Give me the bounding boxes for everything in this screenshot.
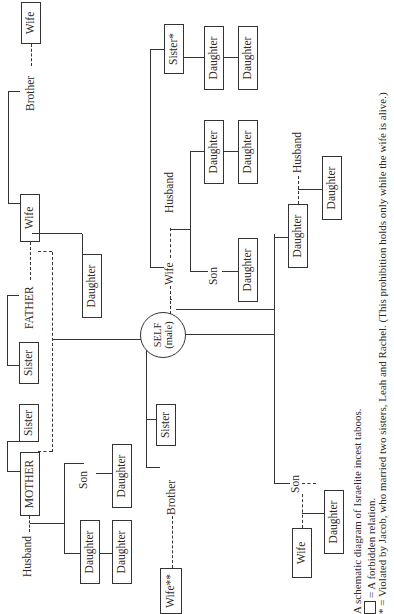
father-wife-link	[30, 242, 31, 280]
wife-son-stem	[190, 271, 208, 272]
self-sister-box: Sister	[156, 404, 176, 446]
brother-wife-dashed	[172, 516, 173, 568]
wife-husband-stem	[170, 229, 190, 230]
mother-husband-stem	[30, 523, 64, 524]
self-children-stem	[170, 299, 172, 300]
mother-box: MOTHER	[20, 452, 40, 516]
self-down-stem	[186, 334, 274, 335]
mother-son-stem	[64, 463, 84, 464]
father-sister-box: Sister	[19, 342, 39, 384]
self-son-label: Son	[290, 474, 302, 494]
mother-sister-bracket-v	[7, 471, 20, 472]
self-to-children-from-wife	[176, 309, 274, 310]
daughter-husband-label: Husband	[292, 131, 304, 174]
mother-daughter-daughter-link	[100, 553, 112, 554]
daughter-daughter-box: Daughter	[322, 156, 342, 220]
daughter-husband-dashed	[298, 176, 299, 204]
forbidden-relation-square-icon	[364, 601, 376, 614]
wife-sister-bracket-b	[150, 49, 164, 50]
father-sister-bracket-v	[7, 365, 19, 366]
mother-sister-bracket-h	[7, 442, 8, 472]
caption-title: A schematic diagram of Israelite incest …	[352, 408, 363, 614]
wife-sister-box: Sister*	[164, 24, 184, 74]
wife-children-bar	[190, 152, 191, 272]
mother-son-label: Son	[78, 470, 90, 490]
mother-son-daughter-link	[96, 473, 112, 474]
mother-sister-box: Sister	[19, 404, 39, 442]
wife-husband-label: Husband	[164, 171, 176, 214]
parents-to-sibling-bar	[52, 339, 146, 340]
mother-father-vertical-right	[38, 251, 52, 252]
incest-taboo-diagram: Husband MOTHER Sister Sister FATHER Wife…	[0, 0, 394, 614]
father-brother-wife-box: Wife	[21, 2, 41, 44]
wife-daughter-stem	[190, 151, 204, 152]
husband-mother-link	[29, 516, 30, 532]
self-male-label: (male)	[163, 321, 174, 348]
father-brother-bracket-h	[8, 92, 9, 204]
wife-daughter-daughter-link	[224, 151, 238, 152]
father-brother-bracket-v2	[8, 91, 20, 92]
mother-father-vertical-left	[38, 451, 52, 452]
wife-son-daughter-box: Daughter	[238, 238, 258, 302]
father-daughter-branch	[82, 234, 83, 254]
mother-sister-link	[7, 441, 19, 442]
wife-son-label: Son	[208, 266, 220, 286]
self-circle: SELF (male)	[140, 312, 186, 358]
mother-daughter-stem	[64, 553, 80, 554]
mother-daughter-daughter-box: Daughter	[112, 520, 132, 584]
self-son-stem	[274, 483, 290, 484]
father-sister-bracket-v2	[7, 295, 19, 296]
wife-sister-daughter-1: Daughter	[204, 26, 224, 90]
father-daughter-stem	[32, 233, 82, 234]
son-wife-dashed	[302, 483, 316, 484]
wife-sister-daughter-2: Daughter	[238, 26, 258, 90]
father-label: FATHER	[24, 285, 36, 330]
son-daughter-box: Daughter	[324, 490, 344, 554]
son-wife-dashed-h	[302, 494, 303, 528]
father-brother-label: Brother	[25, 75, 37, 112]
son-wife-box: Wife	[292, 528, 312, 578]
mother-children-bar	[64, 464, 65, 554]
self-daughter-stem	[274, 237, 288, 238]
self-wife-dashed	[170, 286, 171, 314]
self-children-bar	[274, 334, 275, 484]
daughter-child-stem	[298, 189, 322, 190]
brother-stem	[146, 467, 160, 468]
mother-son-daughter-box: Daughter	[112, 444, 132, 508]
mother-husband-label: Husband	[22, 535, 34, 578]
father-wife-box: Wife	[20, 194, 40, 242]
caption-footnote: * = Violated by Jacob, who married two s…	[377, 92, 388, 614]
wife-daughter-daughter-box: Daughter	[238, 120, 258, 184]
wife-sister-bracket-h	[150, 50, 151, 268]
wife-label: Wife	[164, 261, 176, 286]
sibling-bar	[146, 340, 147, 468]
self-brother-label: Brother	[166, 479, 178, 516]
father-brother-bracket-v	[8, 203, 20, 204]
son-daughter-stem	[302, 513, 324, 514]
wife-husband-dashed	[170, 228, 171, 258]
father-sister-bracket-h	[7, 296, 8, 366]
brother-wife-box: Wife**	[160, 568, 182, 614]
wife-daughter-box: Daughter	[204, 120, 224, 184]
mother-daughter-box: Daughter	[80, 520, 100, 584]
wife-sister-bracket-a	[150, 267, 164, 268]
sister-stem	[146, 419, 156, 420]
self-label: SELF	[152, 323, 163, 348]
parents-link	[52, 252, 53, 452]
brother-wife-link	[31, 44, 32, 66]
self-daughter-box: Daughter	[288, 204, 308, 268]
father-daughter-box: Daughter	[82, 254, 102, 318]
wife-son-daughter-link	[222, 271, 238, 272]
wife-sister-daughter-link	[224, 57, 238, 58]
self-children-bar-right	[274, 234, 275, 334]
wife-sister-children-stem	[184, 57, 204, 58]
